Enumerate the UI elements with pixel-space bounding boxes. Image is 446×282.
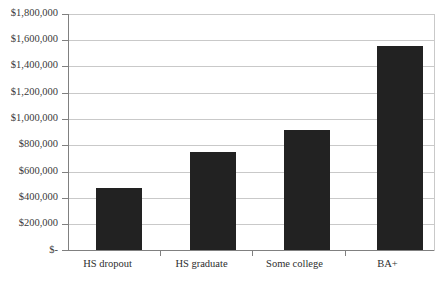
bar-some-college <box>284 130 330 250</box>
y-axis-tick-label: $800,000 <box>19 139 58 150</box>
x-axis-tick-mark <box>345 250 346 256</box>
x-axis-tick-mark <box>252 250 253 256</box>
bar-ba-plus <box>377 46 423 250</box>
x-axis-label-ba-plus: BA+ <box>330 258 445 270</box>
y-axis-line <box>68 14 69 251</box>
y-axis-tick-label: $1,400,000 <box>11 60 58 71</box>
y-axis-tick-label: $200,000 <box>19 218 58 229</box>
bar-hs-graduate <box>190 152 236 250</box>
y-axis-tick-label: $400,000 <box>19 192 58 203</box>
bar-chart: $1,800,000 $1,600,000 $1,400,000 $1,200,… <box>0 0 446 282</box>
y-axis-tick-label: $1,600,000 <box>11 34 58 45</box>
bar-hs-dropout <box>96 188 142 250</box>
y-axis-tick-label: $- <box>49 245 58 256</box>
y-axis-tick-label: $600,000 <box>19 166 58 177</box>
bars <box>68 14 434 250</box>
x-axis-tick-mark <box>160 250 161 256</box>
y-axis-tick-label: $1,800,000 <box>11 8 58 19</box>
y-axis-tick-label: $1,200,000 <box>11 87 58 98</box>
plot-area <box>68 14 434 250</box>
plot-right-border <box>434 14 435 251</box>
y-axis-tick-label: $1,000,000 <box>11 113 58 124</box>
